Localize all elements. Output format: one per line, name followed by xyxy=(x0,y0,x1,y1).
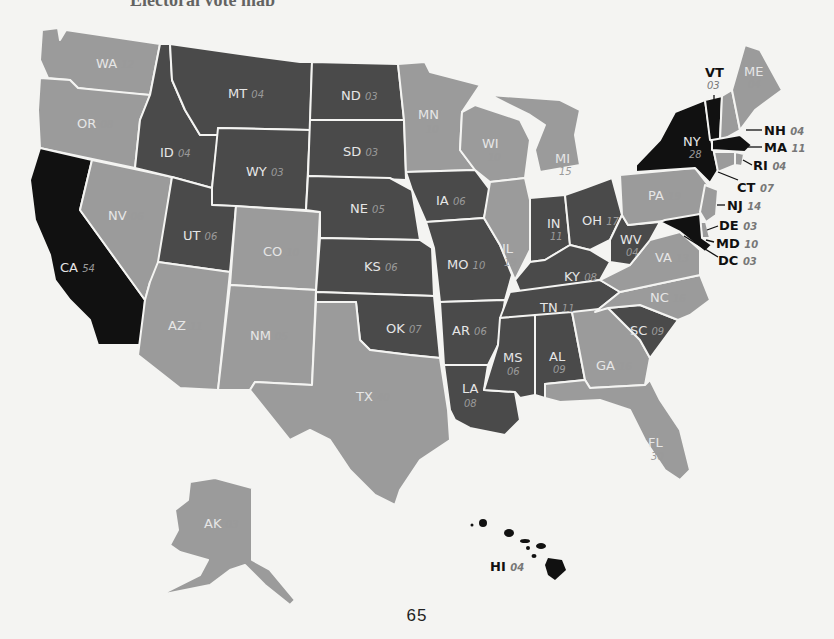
svg-text:NM 05: NM 05 xyxy=(250,328,288,343)
svg-text:SD 03: SD 03 xyxy=(343,144,378,159)
svg-text:VA 13: VA 13 xyxy=(655,250,689,265)
svg-text:MN: MN xyxy=(418,107,439,122)
svg-text:MI: MI xyxy=(555,151,570,166)
state-RI[interactable] xyxy=(735,152,744,166)
us-electoral-map: WA 12 OR 08 CA 54 ID 04 NV 06 MT 04 WY 0… xyxy=(0,0,834,639)
svg-text:MA 11: MA 11 xyxy=(764,140,805,155)
svg-text:LA: LA xyxy=(462,381,479,396)
svg-text:28: 28 xyxy=(689,149,702,160)
svg-text:PA 19: PA 19 xyxy=(648,188,681,203)
svg-text:WY 03: WY 03 xyxy=(246,164,284,179)
svg-text:04: 04 xyxy=(748,79,761,90)
svg-text:NH 04: NH 04 xyxy=(764,123,804,138)
svg-text:30: 30 xyxy=(651,451,664,462)
svg-text:NV 06: NV 06 xyxy=(108,208,144,223)
svg-text:OH 17: OH 17 xyxy=(582,213,620,228)
svg-text:AK 03: AK 03 xyxy=(204,516,238,531)
state-FL[interactable] xyxy=(545,380,690,480)
svg-text:NC 16: NC 16 xyxy=(650,290,686,305)
svg-text:MO 10: MO 10 xyxy=(447,257,485,272)
svg-text:SC 09: SC 09 xyxy=(630,323,664,338)
svg-text:10: 10 xyxy=(488,152,501,163)
svg-text:11: 11 xyxy=(550,231,563,242)
svg-text:KS 06: KS 06 xyxy=(364,259,398,274)
svg-text:AL: AL xyxy=(549,349,566,364)
svg-text:CO 10: CO 10 xyxy=(263,244,299,259)
svg-text:10: 10 xyxy=(426,124,439,135)
svg-text:UT 06: UT 06 xyxy=(183,228,217,243)
svg-text:15: 15 xyxy=(559,166,572,177)
svg-text:CA 54: CA 54 xyxy=(60,260,95,275)
svg-text:08: 08 xyxy=(464,398,477,409)
svg-text:MT 04: MT 04 xyxy=(228,86,264,101)
state-AK[interactable] xyxy=(160,478,295,605)
svg-text:HI 04: HI 04 xyxy=(490,559,524,574)
svg-text:ND 03: ND 03 xyxy=(341,88,378,103)
svg-text:19: 19 xyxy=(504,257,517,268)
svg-text:WI: WI xyxy=(482,136,499,151)
svg-text:TN 11: TN 11 xyxy=(539,300,575,315)
svg-text:OR 08: OR 08 xyxy=(77,116,113,131)
svg-text:IL: IL xyxy=(502,241,514,256)
svg-text:06: 06 xyxy=(507,366,520,377)
svg-text:GA 16: GA 16 xyxy=(596,358,632,373)
svg-text:IA 06: IA 06 xyxy=(436,193,466,208)
svg-text:OK 07: OK 07 xyxy=(386,321,422,336)
svg-text:MD 10: MD 10 xyxy=(716,236,758,251)
svg-text:04: 04 xyxy=(626,247,639,258)
svg-text:AR 06: AR 06 xyxy=(452,323,487,338)
svg-text:VT: VT xyxy=(705,65,724,80)
svg-text:RI 04: RI 04 xyxy=(753,158,786,173)
svg-text:NJ 14: NJ 14 xyxy=(727,198,761,213)
svg-text:MS: MS xyxy=(503,350,522,365)
svg-text:IN: IN xyxy=(547,216,561,231)
svg-text:DE 03: DE 03 xyxy=(719,218,757,233)
svg-text:03: 03 xyxy=(707,80,720,91)
svg-text:AZ 11: AZ 11 xyxy=(168,318,203,333)
svg-text:NY: NY xyxy=(683,134,701,149)
svg-text:FL: FL xyxy=(648,435,663,450)
svg-text:KY 08: KY 08 xyxy=(564,269,597,284)
svg-text:CT 07: CT 07 xyxy=(737,180,774,195)
state-CT[interactable] xyxy=(714,152,735,172)
svg-text:TX 40: TX 40 xyxy=(355,389,390,404)
svg-text:ME: ME xyxy=(744,64,763,79)
svg-text:09: 09 xyxy=(553,364,566,375)
svg-text:ID 04: ID 04 xyxy=(160,145,191,160)
svg-text:NE 05: NE 05 xyxy=(350,201,385,216)
page-number: 65 xyxy=(400,606,434,626)
svg-text:WV: WV xyxy=(620,232,642,247)
svg-text:DC 03: DC 03 xyxy=(718,253,757,268)
svg-text:WA 12: WA 12 xyxy=(96,56,134,71)
